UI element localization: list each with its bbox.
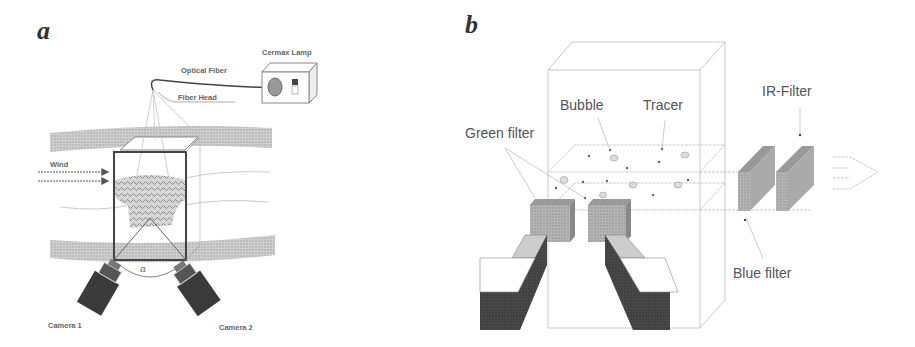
label-cermax-lamp: Cermax Lamp (262, 48, 312, 57)
label-green-filter: Green filter (465, 125, 534, 141)
label-optical-fiber: Optical Fiber (181, 66, 227, 75)
panel-label-b: b (465, 10, 478, 40)
label-alpha: α (140, 262, 146, 274)
optical-fiber (152, 80, 275, 90)
ir-camera-lens (833, 157, 878, 189)
camera-right (605, 235, 678, 330)
camera-left (480, 235, 547, 330)
camera-2 (167, 256, 221, 316)
blue-filter (738, 146, 775, 211)
bubbles (560, 152, 689, 198)
label-tracer: Tracer (643, 97, 683, 113)
label-camera-1: Camera 1 (48, 321, 82, 330)
ir-filter (776, 146, 814, 211)
panel-a-wind-wave-setup: a Cermax Lamp Optical Fiber Fiber Head W… (0, 0, 450, 347)
turbulent-region (115, 175, 185, 228)
alpha-angle-arc (118, 264, 182, 277)
wind-arrows (38, 169, 108, 184)
label-wind: Wind (50, 160, 68, 169)
camera-1 (77, 255, 128, 316)
label-bubble: Bubble (560, 97, 604, 113)
label-ir-filter: IR-Filter (762, 83, 812, 99)
panel-label-a: a (37, 16, 50, 46)
panel-a-drawing (0, 0, 450, 347)
label-blue-filter: Blue filter (733, 265, 791, 281)
label-fiber-head: Fiber Head (178, 93, 217, 102)
cermax-lamp-box (262, 63, 317, 103)
label-camera-2: Camera 2 (219, 323, 253, 332)
lower-channel-band (50, 235, 275, 262)
panel-b-piv-setup: b Bubble Tracer Green filter IR-Filter B… (450, 0, 915, 347)
panel-b-drawing (450, 0, 915, 347)
